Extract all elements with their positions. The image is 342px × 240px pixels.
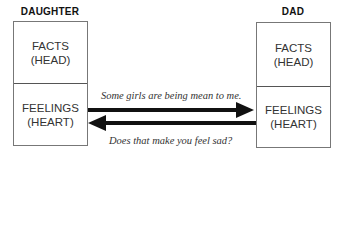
arrow-left-icon	[88, 115, 256, 131]
message-to-dad: Some girls are being mean to me.	[101, 90, 241, 101]
message-to-daughter: Does that make you feel sad?	[109, 135, 232, 146]
arrow-right-icon	[88, 102, 254, 118]
